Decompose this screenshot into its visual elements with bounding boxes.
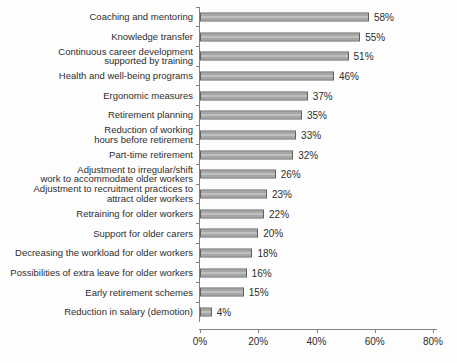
category-label: Reduction in salary (demotion) xyxy=(0,307,199,317)
chart-row: Reduction in salary (demotion)4% xyxy=(0,302,457,322)
category-label: Adjustment to recruitment practices to a… xyxy=(0,184,199,203)
value-label: 46% xyxy=(339,70,359,81)
category-label: Retirement planning xyxy=(0,110,199,120)
value-label: 33% xyxy=(301,129,321,140)
value-label: 51% xyxy=(354,51,374,62)
chart-row: Continuous career development supported … xyxy=(0,46,457,66)
bar-track: 22% xyxy=(199,204,457,224)
chart-row: Early retirement schemes15% xyxy=(0,283,457,303)
chart-row: Possibilities of extra leave for older w… xyxy=(0,263,457,283)
chart-row: Decreasing the workload for older worker… xyxy=(0,243,457,263)
bar-track: 46% xyxy=(199,66,457,86)
bar xyxy=(200,308,212,317)
chart-row: Adjustment to irregular/shift work to ac… xyxy=(0,165,457,185)
x-axis-tick xyxy=(258,329,259,333)
x-axis-tick-label: 80% xyxy=(423,336,443,347)
value-label: 16% xyxy=(252,267,272,278)
bar xyxy=(200,249,252,258)
bar-track: 20% xyxy=(199,224,457,244)
x-axis: 0%20%40%60%80% xyxy=(199,329,439,353)
category-label: Reduction of working hours before retire… xyxy=(0,125,199,144)
category-label: Continuous career development supported … xyxy=(0,47,199,66)
value-label: 32% xyxy=(298,149,318,160)
bar-track: 32% xyxy=(199,145,457,165)
chart-row: Retraining for older workers22% xyxy=(0,204,457,224)
bar xyxy=(200,32,360,41)
bar xyxy=(200,288,244,297)
chart-row: Health and well-being programs46% xyxy=(0,66,457,86)
bar-track: 51% xyxy=(199,46,457,66)
bar-track: 26% xyxy=(199,165,457,185)
x-axis-tick xyxy=(433,329,434,333)
value-label: 22% xyxy=(269,208,289,219)
bar xyxy=(200,150,293,159)
bar xyxy=(200,91,308,100)
chart-row: Reduction of working hours before retire… xyxy=(0,125,457,145)
category-label: Part-time retirement xyxy=(0,150,199,160)
bar xyxy=(200,71,334,80)
category-label: Support for older carers xyxy=(0,229,199,239)
category-label: Adjustment to irregular/shift work to ac… xyxy=(0,165,199,184)
value-label: 18% xyxy=(257,248,277,259)
bar-track: 33% xyxy=(199,125,457,145)
bar-track: 4% xyxy=(199,302,457,322)
bar-track: 18% xyxy=(199,243,457,263)
chart-row: Support for older carers20% xyxy=(0,224,457,244)
value-label: 23% xyxy=(272,189,292,200)
category-label: Knowledge transfer xyxy=(0,32,199,42)
x-axis-line xyxy=(199,329,437,330)
value-label: 58% xyxy=(374,11,394,22)
value-label: 35% xyxy=(307,110,327,121)
bar xyxy=(200,111,302,120)
category-label: Health and well-being programs xyxy=(0,71,199,81)
bar-track: 15% xyxy=(199,283,457,303)
value-label: 15% xyxy=(249,287,269,298)
category-label: Decreasing the workload for older worker… xyxy=(0,248,199,258)
x-axis-tick xyxy=(200,329,201,333)
bar-track: 58% xyxy=(199,7,457,27)
bar xyxy=(200,12,369,21)
x-axis-tick-label: 60% xyxy=(365,336,385,347)
chart-row: Retirement planning35% xyxy=(0,105,457,125)
category-label: Retraining for older workers xyxy=(0,209,199,219)
bar-track: 16% xyxy=(199,263,457,283)
bar xyxy=(200,268,247,277)
value-label: 4% xyxy=(217,307,231,318)
bar-track: 55% xyxy=(199,27,457,47)
chart-row: Coaching and mentoring58% xyxy=(0,7,457,27)
chart-row: Knowledge transfer55% xyxy=(0,27,457,47)
x-axis-tick xyxy=(375,329,376,333)
bar xyxy=(200,190,267,199)
bar-track: 37% xyxy=(199,86,457,106)
category-label: Ergonomic measures xyxy=(0,91,199,101)
x-axis-tick-label: 0% xyxy=(193,336,207,347)
chart-row: Ergonomic measures37% xyxy=(0,86,457,106)
bar xyxy=(200,209,264,218)
bar xyxy=(200,130,296,139)
bar xyxy=(200,52,349,61)
chart-row: Adjustment to recruitment practices to a… xyxy=(0,184,457,204)
value-label: 37% xyxy=(313,90,333,101)
x-axis-tick-label: 20% xyxy=(248,336,268,347)
category-label: Possibilities of extra leave for older w… xyxy=(0,268,199,278)
bar xyxy=(200,170,276,179)
bar-track: 23% xyxy=(199,184,457,204)
x-axis-tick-label: 40% xyxy=(306,336,326,347)
value-label: 55% xyxy=(365,31,385,42)
category-label: Early retirement schemes xyxy=(0,288,199,298)
value-label: 20% xyxy=(263,228,283,239)
bar xyxy=(200,229,258,238)
value-label: 26% xyxy=(281,169,301,180)
x-axis-tick xyxy=(317,329,318,333)
category-label: Coaching and mentoring xyxy=(0,12,199,22)
bar-chart-figure: Coaching and mentoring58%Knowledge trans… xyxy=(0,0,457,363)
chart-row: Part-time retirement32% xyxy=(0,145,457,165)
chart-rows: Coaching and mentoring58%Knowledge trans… xyxy=(0,7,457,322)
bar-track: 35% xyxy=(199,105,457,125)
